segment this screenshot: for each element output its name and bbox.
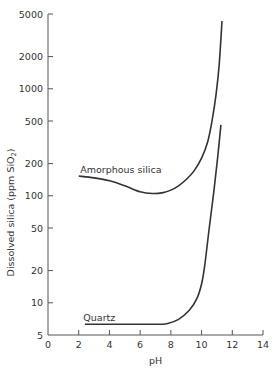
x-tick-label: 0: [45, 339, 51, 350]
y-tick-label: 1000: [19, 83, 43, 94]
y-tick-label: 5000: [19, 9, 43, 20]
amorphous-silica-label: Amorphous silica: [80, 164, 161, 175]
x-tick-label: 14: [257, 339, 269, 350]
quartz-curve: [85, 125, 221, 324]
y-tick-label: 500: [25, 116, 43, 127]
silica-solubility-chart: 510205010020050010002000500002468101214 …: [0, 0, 273, 370]
data-series: Amorphous silicaQuartz: [79, 21, 222, 324]
y-tick-label: 5: [37, 330, 43, 341]
y-tick-label: 2000: [19, 51, 43, 62]
x-tick-label: 6: [137, 339, 143, 350]
y-tick-label: 20: [31, 265, 43, 276]
y-tick-label: 100: [25, 190, 43, 201]
axes: 510205010020050010002000500002468101214: [19, 9, 269, 351]
x-axis-label: pH: [149, 355, 162, 366]
x-tick-label: 12: [226, 339, 238, 350]
x-tick-label: 10: [196, 339, 208, 350]
y-tick-label: 200: [25, 158, 43, 169]
x-tick-label: 4: [106, 339, 112, 350]
y-tick-label: 50: [31, 223, 43, 234]
x-tick-label: 8: [168, 339, 174, 350]
quartz-label: Quartz: [83, 312, 115, 323]
y-axis-label: Dissolved silica (ppm SiO2): [5, 149, 18, 277]
y-tick-label: 10: [31, 297, 43, 308]
x-tick-label: 2: [76, 339, 82, 350]
axis-labels: pHDissolved silica (ppm SiO2): [5, 149, 162, 366]
